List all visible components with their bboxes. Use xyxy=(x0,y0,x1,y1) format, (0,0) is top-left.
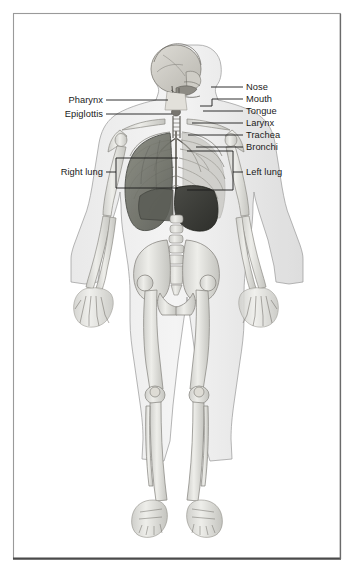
label-left-lung: Left lung xyxy=(246,167,282,177)
label-tongue: Tongue xyxy=(246,106,277,116)
anatomy-figure: Nose Mouth Tongue Larynx Trachea Bronchi… xyxy=(0,0,354,580)
spine xyxy=(168,215,185,295)
label-bronchi: Bronchi xyxy=(246,142,278,152)
label-epiglottis: Epiglottis xyxy=(0,109,103,119)
label-larynx: Larynx xyxy=(246,118,274,128)
label-right-lung: Right lung xyxy=(0,167,103,177)
label-trachea: Trachea xyxy=(246,130,280,140)
anatomy-illustration xyxy=(0,0,354,580)
label-mouth: Mouth xyxy=(246,94,272,104)
label-nose: Nose xyxy=(246,82,268,92)
label-pharynx: Pharynx xyxy=(0,95,103,105)
